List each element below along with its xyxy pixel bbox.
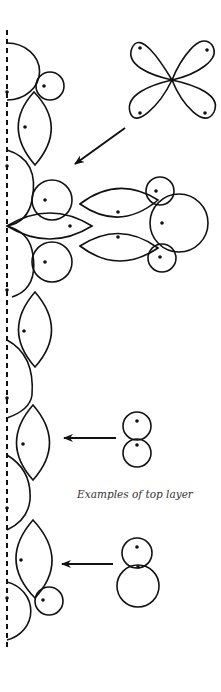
lens-1: [18, 92, 51, 165]
diagram-canvas: [0, 0, 221, 692]
arrow-flower: [75, 128, 125, 164]
small-circle: [35, 587, 63, 615]
axis-dot: [5, 506, 9, 510]
middle-cluster: [7, 177, 208, 282]
circle-lower: [32, 242, 72, 282]
bottom-cluster: [5, 582, 63, 640]
snowman-inset: [117, 538, 159, 607]
arc-lower-middle: [7, 455, 30, 530]
big-circle: [150, 194, 208, 252]
axis-dot: [5, 396, 9, 400]
half-circle: [7, 582, 31, 640]
lens-4: [16, 520, 52, 598]
axis-dot: [5, 90, 9, 94]
small-circle: [36, 72, 64, 100]
figure-eight-inset: [123, 412, 151, 467]
top-cluster: [5, 43, 64, 100]
half-circle: [7, 43, 40, 100]
caption: Examples of top layer: [60, 488, 210, 500]
arc-upper: [7, 150, 34, 226]
lens-2: [5, 288, 51, 367]
four-petal-flower-inset: [129, 41, 215, 118]
arc-middle: [7, 340, 32, 418]
center-dot: [42, 84, 46, 88]
small-circle-bottom: [148, 244, 176, 272]
lens-horizontal: [7, 213, 92, 239]
axis-dot: [5, 164, 9, 168]
